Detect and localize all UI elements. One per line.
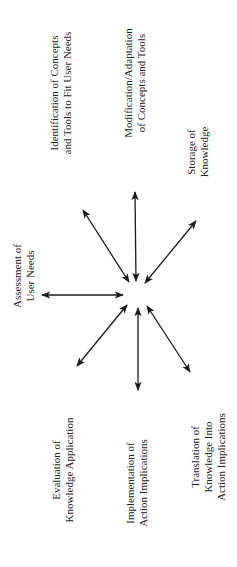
node-implementation: Implementation of Action Implications [124, 428, 150, 538]
arrow-translation [147, 306, 190, 372]
node-line: Action Implications [215, 402, 228, 512]
node-modification: Modification/Adaptation of Concepts and … [122, 18, 148, 148]
node-line: User Needs [24, 236, 37, 316]
node-line: Knowledge Into [202, 402, 215, 512]
arrow-evaluation [77, 305, 127, 366]
node-line: and Tools to Fit User Needs [61, 18, 74, 168]
node-line: Storage of [185, 122, 198, 182]
node-line: Identification of Concepts [48, 18, 61, 168]
node-line: Modification/Adaptation [122, 18, 135, 148]
node-translation: Translation of Knowledge Into Action Imp… [189, 402, 228, 512]
node-assessment: Assessment of User Needs [11, 236, 37, 316]
arrow-storage [83, 210, 129, 282]
node-identification: Identification of Concepts and Tools to … [48, 18, 74, 168]
node-evaluation: Evaluation of Knowledge Application [50, 405, 76, 535]
node-storage: Storage of Knowledge [185, 122, 211, 182]
node-line: Implementation of [124, 428, 137, 538]
node-line: Assessment of [11, 236, 24, 316]
arrow-identification [135, 192, 136, 281]
node-line: Translation of [189, 402, 202, 512]
node-line: Knowledge Application [63, 405, 76, 535]
node-line: Evaluation of [50, 405, 63, 535]
arrow-modification [145, 221, 196, 283]
node-line: Knowledge [198, 122, 211, 182]
node-line: Action Implications [137, 428, 150, 538]
node-line: of Concepts and Tools [135, 18, 148, 148]
